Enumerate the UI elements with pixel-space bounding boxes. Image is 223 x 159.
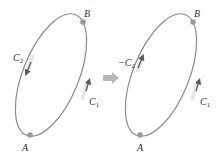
right-point-a (137, 132, 143, 138)
left-point-a (27, 132, 33, 138)
left-point-b (80, 19, 86, 25)
left-label-c2: C2 (13, 52, 24, 65)
left-c1-highlight (82, 80, 88, 100)
right-label-b: B (194, 8, 200, 19)
right-label-a: A (136, 142, 144, 153)
left-loop: B A C2 C1 (1, 4, 102, 153)
right-c1-highlight (192, 80, 198, 100)
right-closed-curve (111, 4, 212, 146)
right-label-neg-c2: −C2 (118, 57, 135, 70)
right-point-b (190, 19, 196, 25)
right-label-c1: C1 (200, 96, 211, 109)
left-closed-curve (1, 4, 102, 146)
left-label-b: B (84, 8, 90, 19)
right-arrow-icon (103, 72, 119, 84)
right-loop: B A −C2 C1 (111, 4, 212, 153)
left-label-a: A (21, 142, 29, 153)
left-label-c1: C1 (89, 96, 100, 109)
closed-loop-diagram: B A C2 C1 B A −C2 C1 (0, 0, 223, 159)
